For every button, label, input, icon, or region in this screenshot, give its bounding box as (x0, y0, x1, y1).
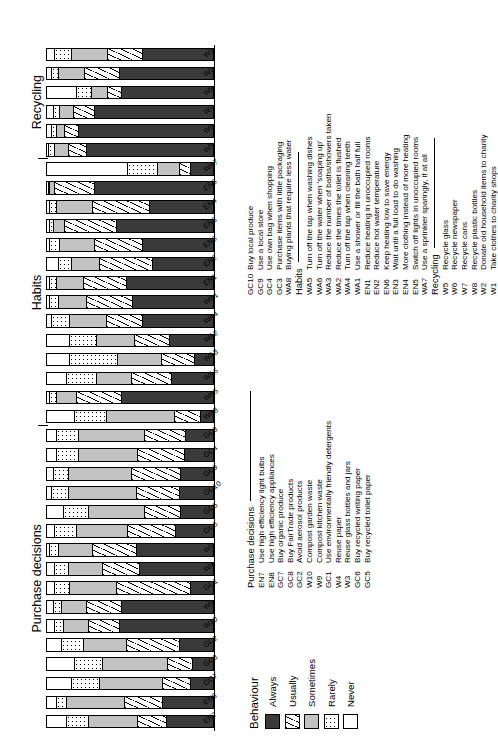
key-row-WA1: WA1Use a shower or fill the bath half fu… (353, 28, 363, 295)
segment-rarely (77, 87, 92, 99)
bar-W7 (46, 105, 214, 119)
key-description: Reduce hot water temperature (372, 28, 382, 270)
segment-rarely (55, 49, 72, 61)
segment-sometimes (59, 296, 87, 308)
segment-rarely (57, 449, 79, 461)
segment-never (47, 620, 55, 632)
bar-WA6 (46, 372, 214, 386)
key-description: Reuse glass bottles and jars (343, 321, 353, 563)
legend-item-always[interactable]: Always (265, 599, 280, 729)
group-title-purchase-decisions: Purchase decisions (30, 524, 44, 632)
bar-EN2 (46, 257, 214, 271)
segment-rarely (67, 716, 89, 728)
segment-rarely (75, 411, 107, 423)
segment-usually (138, 449, 184, 461)
key-heading-habits: Habits (294, 28, 304, 295)
segment-sometimes (118, 354, 161, 366)
legend-title: Behaviour (248, 599, 260, 729)
segment-sometimes (57, 277, 84, 289)
segment-never (47, 716, 67, 728)
segment-rarely (50, 296, 58, 308)
segment-usually (127, 639, 180, 651)
key-row-GC2: GC2Avoid aerosol products (295, 321, 305, 588)
segment-sometimes (100, 678, 163, 690)
legend-label: Never (345, 681, 356, 707)
bar-GC1 (46, 581, 214, 595)
key-description: Recycle glass (441, 28, 451, 270)
key-description: Take clothes to charity shops (489, 28, 498, 270)
legend-swatch-rarely (324, 714, 339, 729)
key-row-GC1: GC1Use environmentally friendly detergen… (324, 321, 334, 588)
key-row-W4: W4Reuse paper (334, 321, 344, 588)
key-description: Reuse paper (334, 321, 344, 563)
legend-item-sometimes[interactable]: Sometimes (304, 599, 319, 729)
segment-rarely (57, 697, 67, 709)
segment-never (47, 49, 55, 61)
segment-usually (180, 163, 192, 175)
segment-rarely (54, 106, 61, 118)
bar-W1 (46, 48, 214, 62)
bar-WA1 (46, 295, 214, 309)
segment-usually (117, 582, 192, 594)
segment-always (120, 68, 213, 80)
segment-sometimes (70, 582, 116, 594)
segment-rarely (55, 525, 77, 537)
legend-item-never[interactable]: Never (343, 599, 358, 729)
segment-rarely (52, 68, 59, 80)
bar-WA8 (46, 410, 214, 424)
segment-always (122, 601, 213, 613)
segment-never (47, 563, 55, 575)
segment-sometimes (69, 563, 104, 575)
segment-sometimes (72, 258, 100, 270)
segment-usually (93, 201, 149, 213)
key-code: EN3 (391, 270, 401, 295)
key-description: Use own bag when shopping (265, 28, 275, 270)
key-heading-purchase: Purchase decisions (246, 321, 256, 588)
key-description: Buy local produce (246, 28, 256, 270)
segment-never (47, 449, 57, 461)
legend-item-usually[interactable]: Usually (285, 599, 300, 729)
bar-WA5 (46, 391, 214, 405)
legend-label: Rarely (326, 679, 337, 707)
key-description: Purchase items with little packaging (275, 28, 285, 270)
key-row-W10: W10Compost garden waste (305, 321, 315, 588)
key-code: GC5 (363, 563, 373, 588)
legend-item-rarely[interactable]: Rarely (324, 599, 339, 729)
bar-WA3 (46, 353, 214, 367)
segment-usually (85, 68, 120, 80)
key-code: W5 (441, 270, 451, 295)
code-key-lists: Purchase decisionsEN7Use high efficiency… (246, 28, 498, 588)
segment-usually (74, 106, 96, 118)
bar-WA2 (46, 334, 214, 348)
key-code: EN7 (257, 563, 267, 588)
segment-usually (84, 277, 127, 289)
segment-rarely (67, 373, 97, 385)
bar-W2 (46, 67, 214, 81)
key-code: W1 (489, 270, 498, 295)
key-description: Donate old household items to charity (479, 28, 489, 270)
segment-rarely (52, 315, 70, 327)
legend-swatch-always (265, 714, 280, 729)
key-row-WA6: WA6Turn off the water when 'soaping up' (315, 28, 325, 295)
segment-rarely (50, 544, 58, 556)
segment-rarely (72, 678, 100, 690)
key-description: Reduce heating in unoccupied rooms (363, 28, 373, 270)
segment-sometimes (60, 106, 73, 118)
segment-usually (89, 620, 121, 632)
segment-sometimes (59, 544, 94, 556)
key-code: GC7 (276, 563, 286, 588)
key-row-GC9: GC9Use a local store (256, 28, 266, 295)
key-row-WA2: WA2Reduce the times the toilet is flushe… (334, 28, 344, 295)
key-code: W8 (470, 270, 480, 295)
segment-usually (132, 468, 182, 480)
segment-always (122, 392, 213, 404)
group-title-recycling: Recycling (30, 75, 44, 129)
legend-label: Always (267, 677, 278, 707)
segment-usually (69, 144, 87, 156)
segment-always (117, 220, 213, 232)
segment-rarely (50, 239, 60, 251)
key-code: EN4 (401, 270, 411, 295)
key-row-W6: W6Recycle newspaper (450, 28, 460, 295)
segment-sometimes (67, 697, 125, 709)
key-description: Switch off lights in unoccupied rooms (411, 28, 421, 270)
